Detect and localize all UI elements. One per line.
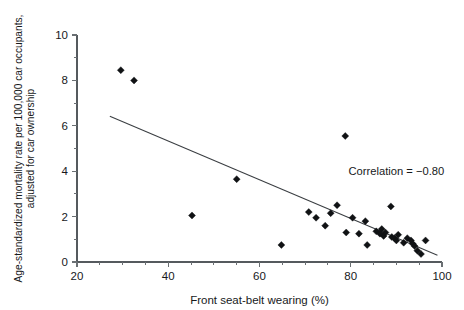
data-point	[305, 209, 312, 216]
x-tick-label-20: 20	[71, 270, 84, 282]
data-point	[322, 222, 329, 229]
x-tick-label-80: 80	[344, 270, 357, 282]
data-point	[233, 176, 240, 183]
y-tick-label-0: 0	[62, 256, 68, 268]
y-axis-title-line1: Age-standardized mortality rate per 100,…	[13, 15, 24, 283]
data-point	[313, 214, 320, 221]
data-point	[188, 212, 195, 219]
data-point	[343, 229, 350, 236]
x-tick-label-40: 40	[162, 270, 175, 282]
data-point	[387, 203, 394, 210]
trend-line	[110, 116, 438, 255]
y-tick-label-8: 8	[62, 74, 68, 86]
data-point	[342, 133, 349, 140]
x-axis-title: Front seat-belt wearing (%)	[190, 294, 329, 306]
y-tick-label-6: 6	[62, 120, 68, 132]
y-tick-label-4: 4	[62, 165, 69, 177]
data-point	[117, 67, 124, 74]
x-tick-label-100: 100	[432, 270, 451, 282]
y-tick-label-10: 10	[55, 29, 68, 41]
y-tick-label-2: 2	[62, 211, 68, 223]
scatter-plot-figure: 024681020406080100Correlation = −0.80Fro…	[0, 0, 464, 310]
data-point	[278, 241, 285, 248]
data-point	[364, 241, 371, 248]
data-point	[131, 77, 138, 84]
plot-canvas: 024681020406080100Correlation = −0.80Fro…	[0, 0, 464, 310]
data-point	[355, 230, 362, 237]
correlation-annotation: Correlation = −0.80	[348, 165, 444, 177]
y-axis-title-line2: adjusted for car ownership	[25, 88, 36, 208]
y-axis-title: Age-standardized mortality rate per 100,…	[13, 15, 36, 283]
x-tick-label-60: 60	[253, 270, 266, 282]
data-point	[334, 202, 341, 209]
data-point	[422, 237, 429, 244]
